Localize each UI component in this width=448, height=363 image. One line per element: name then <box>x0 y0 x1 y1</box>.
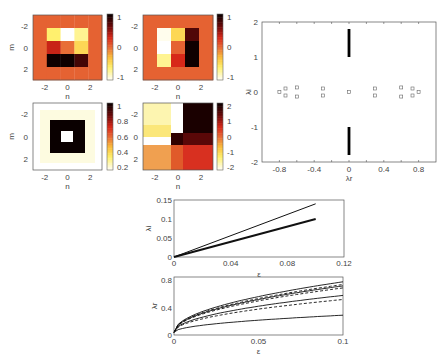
colorbar-tick-label: 0.2 <box>117 163 129 172</box>
colorbar-tick-label: 0 <box>117 43 122 52</box>
y-tick-label: 0 <box>134 133 139 142</box>
x-axis-label: n <box>176 182 180 191</box>
y-tick-label: -2 <box>131 110 139 119</box>
x-tick-label: 0 <box>65 173 70 182</box>
colorbar-tick-label: 0.8 <box>117 117 129 126</box>
x-axis-label: λr <box>346 174 353 183</box>
y-tick-label: 2 <box>254 18 259 27</box>
x-tick-label: 0.12 <box>336 259 352 268</box>
y-tick-label: 0 <box>24 133 29 142</box>
y-tick-label: -1 <box>251 123 259 132</box>
colorbar-tick-label: -1 <box>227 73 235 82</box>
imag-growth-chart: 00.040.080.120.150.10.050ελi <box>144 196 352 279</box>
y-tick-label: 0 <box>134 44 139 53</box>
y-axis-label: λi <box>244 89 253 95</box>
heatmap-a: -202-202nm10-1 <box>7 13 125 101</box>
x-tick-label: -2 <box>151 173 159 182</box>
y-tick-label: -2 <box>21 110 29 119</box>
x-tick-label: 2 <box>88 83 93 92</box>
colorbar-tick-label: 2 <box>227 102 232 111</box>
x-tick-label: -0.4 <box>307 165 321 174</box>
x-tick-label: 0 <box>65 83 70 92</box>
colorbar-tick-label: 1 <box>117 102 122 111</box>
y-tick-label: 0.4 <box>161 304 173 313</box>
y-tick-label: -2 <box>131 22 139 31</box>
colorbar-tick-label: 0.6 <box>117 133 129 142</box>
colorbar-tick-label: 1 <box>117 13 122 22</box>
figure: -202-202nm10-1-202-202n10-1-202-202nm10.… <box>0 0 448 363</box>
x-tick-label: -0.8 <box>273 165 287 174</box>
x-tick-label: -2 <box>41 83 49 92</box>
y-tick-label: -2 <box>21 22 29 31</box>
colorbar-d: 210-1-2 <box>217 102 235 172</box>
colorbar-tick-label: 0 <box>227 133 232 142</box>
heatmap-b: -202-202n10-1 <box>131 13 235 101</box>
real-growth-chart: 00.050.10.80.40ελr <box>150 276 349 356</box>
y-tick-label: 0 <box>168 253 173 262</box>
y-tick-label: 2 <box>134 155 139 164</box>
y-axis-label: m <box>7 133 16 140</box>
y-axis-label: λi <box>144 225 153 231</box>
colorbar-c: 10.80.60.40.2 <box>107 102 129 172</box>
x-tick-label: -2 <box>41 173 49 182</box>
colorbar-tick-label: 1 <box>227 117 232 126</box>
colorbar-tick-label: -1 <box>227 148 235 157</box>
x-tick-label: 2 <box>88 173 93 182</box>
x-tick-label: 0 <box>176 83 181 92</box>
colorbar-tick-label: 0 <box>227 43 232 52</box>
y-tick-label: 0 <box>168 331 173 340</box>
y-tick-label: 2 <box>24 65 29 74</box>
x-tick-label: 0 <box>347 165 352 174</box>
x-tick-label: 2 <box>199 173 204 182</box>
y-tick-label: 2 <box>24 155 29 164</box>
x-axis-label: ε <box>257 347 261 356</box>
x-tick-label: 0 <box>172 259 177 268</box>
x-tick-label: 0.04 <box>223 259 239 268</box>
x-tick-label: 0.05 <box>251 337 267 346</box>
heatmap-d: -202-202n210-1-2 <box>131 102 235 191</box>
y-tick-label: 1 <box>254 53 259 62</box>
colorbar-a: 10-1 <box>107 13 125 82</box>
x-axis-label: n <box>176 92 180 101</box>
y-tick-label: 2 <box>134 65 139 74</box>
y-tick-label: 0 <box>24 44 29 53</box>
colorbar-tick-label: -2 <box>227 163 235 172</box>
x-tick-label: -2 <box>151 83 159 92</box>
x-tick-label: 0.08 <box>280 259 296 268</box>
y-tick-label: 0.8 <box>161 276 173 285</box>
x-tick-label: 0.8 <box>413 165 425 174</box>
x-tick-label: 2 <box>199 83 204 92</box>
y-axis-label: λr <box>150 302 159 309</box>
y-tick-label: 0.05 <box>156 234 172 243</box>
y-tick-label: 0 <box>254 88 259 97</box>
y-tick-label: 0.1 <box>161 215 173 224</box>
x-tick-label: 0.4 <box>378 165 390 174</box>
x-tick-label: 0 <box>176 173 181 182</box>
spectrum-scatter: -0.8-0.400.40.8210-1-2λrλi <box>244 18 436 183</box>
colorbar-tick-label: -1 <box>117 73 125 82</box>
heatmap-c: -202-202nm10.80.60.40.2 <box>7 102 129 191</box>
colorbar-tick-label: 0.4 <box>117 148 129 157</box>
y-axis-label: m <box>7 44 16 51</box>
y-tick-label: 0.15 <box>156 196 172 205</box>
colorbar-b: 10-1 <box>217 13 235 82</box>
x-axis-label: n <box>65 182 69 191</box>
colorbar-tick-label: 1 <box>227 13 232 22</box>
y-tick-label: -2 <box>251 158 259 167</box>
x-axis-label: n <box>65 92 69 101</box>
x-tick-label: 0.1 <box>337 337 349 346</box>
x-tick-label: 0 <box>172 337 177 346</box>
